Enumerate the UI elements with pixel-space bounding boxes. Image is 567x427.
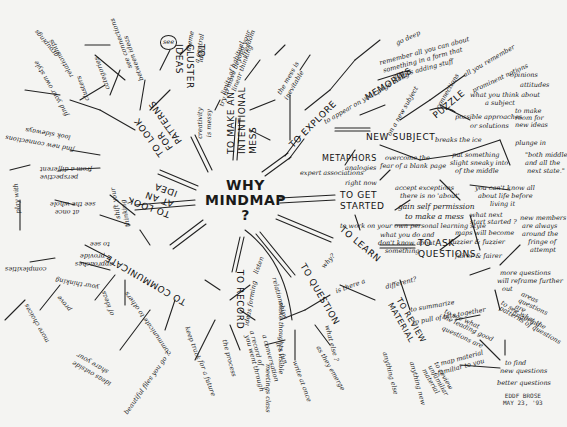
leaf-new-members: new members	[520, 215, 566, 222]
leaf-plunge-in: plunge in	[515, 140, 546, 147]
leaf-is-messy: is messy	[206, 109, 213, 137]
leaf-breaks-ice: breaks the ice	[435, 137, 482, 144]
leaf-from-different: from a different	[40, 165, 92, 172]
leaf-both-middle: "both middle	[525, 152, 567, 159]
central-topic-line1: WHY	[205, 178, 286, 193]
branch-new-subject: NEW SUBJECT	[366, 133, 435, 142]
leaf-of-the-middle: of the middle	[455, 168, 499, 175]
leaf-know-all: you can't know all	[475, 185, 535, 192]
leaf-possible-approaches: possible approaches	[455, 114, 522, 121]
leaf-accept-exceptions: accept exceptions	[395, 185, 454, 192]
leaf-creativity: creativity	[197, 108, 204, 139]
leaf-something: something	[385, 248, 419, 255]
author-signature: EDDF BROSE MAY 23, '93	[503, 392, 543, 406]
leaf-complexities: complexities	[5, 265, 46, 272]
leaf-perspective: perspective	[40, 173, 78, 180]
leaf-dont-know: don't know about	[378, 240, 435, 247]
central-topic-line2: MINDMAP	[205, 193, 286, 208]
leaf-a-subject: a subject	[485, 100, 515, 107]
leaf-living-it: living it	[490, 201, 515, 208]
leaf-what-you-think: what you think about	[470, 92, 540, 99]
leaf-provide: provide	[80, 252, 105, 259]
leaf-attitudes: attitudes	[520, 82, 549, 89]
leaf-to-see: to see	[90, 240, 110, 247]
signature-name: EDDF BROSE	[503, 392, 543, 399]
leaf-fear-blank-page: fear of a blank page	[380, 163, 446, 170]
leaf-better-questions: better questions	[497, 380, 551, 387]
leaf-more-questions: more questions	[500, 270, 551, 277]
leaf-meetings-class: meetings class	[264, 364, 271, 413]
central-topic: WHY MINDMAP ?	[205, 178, 286, 223]
leaf-at-once: at once	[55, 208, 79, 215]
central-topic-line3: ?	[205, 208, 286, 223]
leaf-fuzzier: fuzzier & fuzzier	[450, 239, 505, 246]
leaf-to-make-room: to make room for new ideas	[515, 108, 555, 129]
leaf-right-now: right now	[345, 180, 377, 187]
leaf-will-reframe: will reframe further	[497, 278, 563, 285]
leaf-see-the-whole: see the whole	[50, 200, 95, 207]
leaf-analogies: analogies	[345, 165, 376, 172]
leaf-slight-sneaky: slight sneaky into	[450, 160, 508, 167]
leaf-or-solutions: or solutions	[470, 123, 509, 130]
leaf-new-questions: new questions	[500, 368, 547, 375]
leaf-opinions: opinions	[510, 72, 538, 79]
branch-to-get-started: TO GET STARTED	[340, 190, 388, 212]
leaf-approaches: approaches	[75, 260, 113, 267]
leaf-there-is-no-about: there is no 'about'	[400, 193, 460, 200]
leaf-next-state: next state."	[527, 168, 565, 175]
leaf-out: out	[502, 286, 513, 293]
leaf-attempt: attempt	[530, 247, 556, 254]
leaf-gain-permission: gain self permission	[398, 203, 475, 211]
leaf-maps-will-become: maps will become	[455, 230, 514, 237]
leaf-are-always: are always	[522, 223, 557, 230]
leaf-put-something: put something	[452, 152, 500, 159]
leaf-circled-note: see	[160, 35, 177, 50]
leaf-overcome: overcome the	[385, 155, 430, 162]
leaf-around-the: around the	[522, 231, 558, 238]
leaf-and-all-the: and all the	[525, 160, 560, 167]
signature-date: MAY 23, '93	[503, 399, 543, 406]
leaf-find-new-questions: to find	[505, 360, 526, 367]
branch-metaphors: METAPHORS	[322, 155, 377, 163]
leaf-what-you-do: what you do and	[380, 232, 435, 239]
leaf-about-life: about life before	[478, 193, 533, 200]
leaf-to-make-mess: to make a mess	[405, 213, 464, 221]
leaf-fairer: fairer & fairer	[455, 253, 502, 260]
leaf-fringe: fringe of	[528, 239, 556, 246]
